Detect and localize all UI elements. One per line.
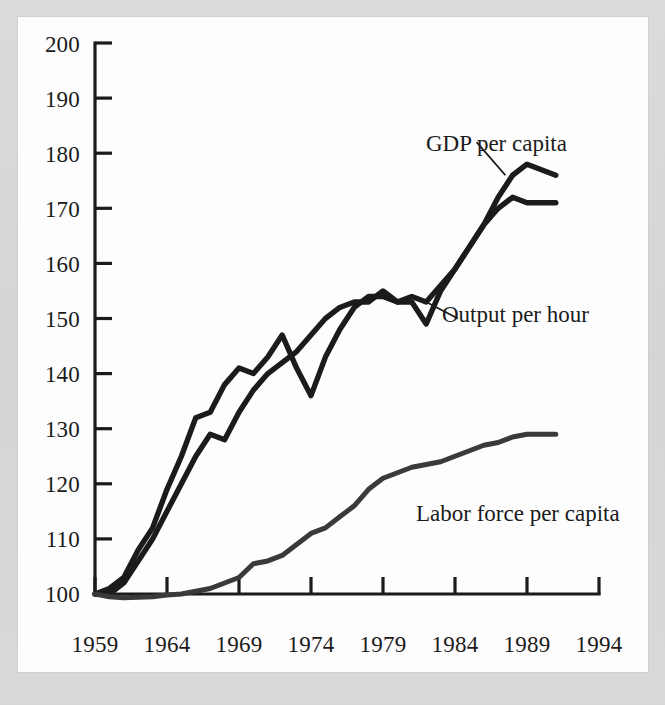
x-tick-label: 1969 — [199, 633, 279, 656]
y-tick-label: 110 — [22, 528, 80, 551]
x-tick-label: 1989 — [487, 633, 567, 656]
series-label-gdp-per-capita: GDP per capita — [426, 132, 567, 155]
x-tick-label: 1974 — [271, 633, 351, 656]
x-tick-label: 1984 — [415, 633, 495, 656]
y-tick-label: 190 — [22, 88, 80, 111]
line-chart — [18, 17, 648, 672]
x-tick-label: 1979 — [343, 633, 423, 656]
x-tick-label: 1959 — [55, 633, 135, 656]
y-tick-label: 200 — [22, 33, 80, 56]
y-tick-label: 160 — [22, 253, 80, 276]
series-label-output-per-hour: Output per hour — [442, 303, 589, 326]
series-label-labor-force-per-capita: Labor force per capita — [416, 502, 620, 525]
y-tick-label: 120 — [22, 473, 80, 496]
series-line-output-per-hour — [95, 197, 556, 594]
y-tick-label: 180 — [22, 143, 80, 166]
x-tick-label: 1994 — [559, 633, 639, 656]
y-tick-label: 150 — [22, 308, 80, 331]
x-axis-ticks — [95, 577, 599, 594]
y-tick-label: 170 — [22, 198, 80, 221]
figure-panel: 200 190 180 170 160 150 140 130 120 110 … — [18, 17, 648, 672]
y-tick-label: 140 — [22, 363, 80, 386]
y-axis-ticks — [95, 43, 112, 594]
data-series-group — [95, 164, 556, 598]
y-tick-label: 100 — [22, 583, 80, 606]
y-tick-label: 130 — [22, 418, 80, 441]
x-tick-label: 1964 — [127, 633, 207, 656]
